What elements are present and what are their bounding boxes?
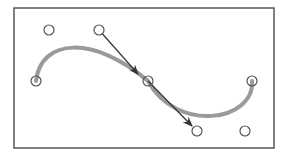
control-point-1 [44,25,54,35]
control-point-2 [94,25,104,35]
diagram-canvas [0,0,286,156]
points-layer [31,25,257,136]
control-point-3 [192,126,202,136]
bezier-curve [36,48,252,116]
control-point-4 [240,126,250,136]
tangent-arrow-outgoing [148,81,192,126]
bezier-diagram [0,0,286,156]
